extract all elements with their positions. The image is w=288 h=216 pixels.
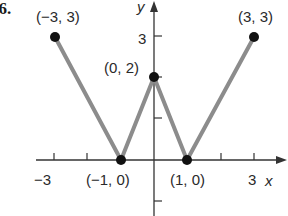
y-axis-label: y xyxy=(136,0,146,15)
problem-number: 26. xyxy=(0,0,11,18)
x-axis-arrow-icon xyxy=(276,156,287,164)
y-tick-label: 3 xyxy=(138,30,146,47)
point-3-3 xyxy=(249,32,259,42)
point-label: (−3, 3) xyxy=(36,8,80,25)
point-label: (1, 0) xyxy=(170,171,205,188)
y-axis-arrow-icon xyxy=(150,1,158,12)
x-tick-label: 3 xyxy=(248,171,256,188)
point-1-0 xyxy=(182,155,192,165)
point-0-2 xyxy=(149,72,159,82)
point-neg1-0 xyxy=(116,155,126,165)
point-label: (0, 2) xyxy=(104,59,139,76)
point-label: (−1, 0) xyxy=(86,171,130,188)
point-neg3-3 xyxy=(50,32,60,42)
x-axis-label: x xyxy=(264,172,273,189)
x-tick-label: −3 xyxy=(34,171,51,188)
piecewise-linear-graph: 26. (−3, 3) (−1, 0) (0, 2) (1, 0) (3, 3)… xyxy=(0,0,288,216)
point-label: (3, 3) xyxy=(238,8,273,25)
